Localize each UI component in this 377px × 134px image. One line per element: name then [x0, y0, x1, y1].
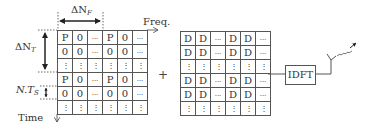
grid-cell: 0: [118, 45, 133, 59]
grid-cell: P: [58, 73, 73, 87]
data-grid-row: ⋮ ⋮ ⋮ ⋮ ⋮ ⋮: [181, 60, 271, 74]
grid-cell: ...: [133, 73, 148, 87]
grid-cell: ⋮: [196, 102, 211, 116]
data-grid-row: D D ... D D ...: [181, 74, 271, 88]
grid-cell: ...: [256, 32, 271, 46]
data-grid-row: D D ... D D ...: [181, 88, 271, 102]
grid-cell: ...: [133, 87, 148, 101]
pilot-grid-row: ⋮ ⋮ ⋮ ⋮ ⋮ ⋮: [58, 101, 148, 115]
grid-cell: ...: [211, 74, 226, 88]
pilot-grid-row: 0 0 ... 0 0 ...: [58, 87, 148, 101]
grid-cell: ...: [133, 45, 148, 59]
delta-nt-label: ΔNT: [15, 41, 36, 54]
grid-cell: ⋮: [226, 102, 241, 116]
grid-cell: ⋮: [58, 101, 73, 115]
pilot-grid-row: P 0 ... P 0 ...: [58, 73, 148, 87]
grid-cell: D: [226, 32, 241, 46]
freq-label: Freq.: [143, 16, 170, 27]
grid-cell: ...: [88, 31, 103, 45]
grid-cell: ⋮: [73, 101, 88, 115]
plus-sign: +: [158, 68, 168, 82]
grid-cell: 0: [118, 31, 133, 45]
pilot-grid-row: 0 0 ... 0 0 ...: [58, 45, 148, 59]
grid-cell: ⋮: [211, 60, 226, 74]
grid-cell: ⋮: [241, 102, 256, 116]
time-label: Time: [18, 112, 43, 123]
grid-cell: D: [181, 46, 196, 60]
grid-cell: ...: [133, 31, 148, 45]
nts-arrow: [40, 86, 57, 99]
grid-cell: D: [196, 46, 211, 60]
grid-cell: ...: [88, 45, 103, 59]
grid-cell: D: [226, 46, 241, 60]
pilot-grid: P 0 ... P 0 ... 0 0 ... 0 0 ... ⋮ ⋮ ⋮ ⋮ …: [57, 30, 148, 115]
grid-cell: 0: [73, 45, 88, 59]
grid-cell: ⋮: [103, 59, 118, 73]
grid-cell: ...: [211, 46, 226, 60]
data-grid-row: D D ... D D ...: [181, 46, 271, 60]
grid-cell: ⋮: [88, 59, 103, 73]
grid-cell: D: [196, 88, 211, 102]
grid-cell: D: [226, 74, 241, 88]
delta-nf-label: ΔNF: [71, 4, 92, 17]
grid-cell: ⋮: [58, 59, 73, 73]
grid-cell: ⋮: [181, 60, 196, 74]
grid-cell: ⋮: [73, 59, 88, 73]
grid-cell: ...: [211, 88, 226, 102]
grid-cell: ⋮: [226, 60, 241, 74]
grid-cell: D: [181, 74, 196, 88]
grid-cell: P: [58, 31, 73, 45]
grid-cell: D: [241, 88, 256, 102]
grid-cell: 0: [118, 87, 133, 101]
grid-cell: ⋮: [133, 59, 148, 73]
grid-cell: D: [196, 74, 211, 88]
grid-cell: D: [196, 32, 211, 46]
grid-cell: 0: [73, 73, 88, 87]
grid-cell: 0: [58, 45, 73, 59]
grid-cell: ...: [88, 73, 103, 87]
data-grid-row: ⋮ ⋮ ⋮ ⋮ ⋮ ⋮: [181, 102, 271, 116]
grid-cell: ...: [88, 87, 103, 101]
delta-nt-arrow: [38, 30, 57, 72]
grid-cell: 0: [103, 45, 118, 59]
antenna-icon: [314, 43, 356, 74]
grid-cell: 0: [73, 31, 88, 45]
grid-cell: D: [181, 88, 196, 102]
grid-cell: ⋮: [256, 102, 271, 116]
grid-cell: 0: [58, 87, 73, 101]
grid-cell: D: [226, 88, 241, 102]
grid-cell: 0: [73, 87, 88, 101]
idft-block: IDFT: [285, 65, 316, 85]
grid-cell: 0: [103, 87, 118, 101]
nts-label: N.TS: [16, 84, 39, 97]
grid-cell: ...: [256, 74, 271, 88]
grid-cell: ⋮: [88, 101, 103, 115]
grid-cell: D: [181, 32, 196, 46]
grid-cell: ⋮: [196, 60, 211, 74]
grid-cell: ...: [256, 88, 271, 102]
grid-cell: ...: [211, 32, 226, 46]
pilot-grid-row: ⋮ ⋮ ⋮ ⋮ ⋮ ⋮: [58, 59, 148, 73]
grid-cell: ⋮: [181, 102, 196, 116]
grid-cell: D: [241, 46, 256, 60]
grid-cell: ...: [256, 46, 271, 60]
pilot-grid-row: P 0 ... P 0 ...: [58, 31, 148, 45]
data-grid: D D ... D D ... D D ... D D ... ⋮ ⋮ ⋮ ⋮ …: [180, 31, 271, 116]
grid-cell: ⋮: [133, 101, 148, 115]
grid-cell: ⋮: [241, 60, 256, 74]
grid-cell: P: [103, 73, 118, 87]
grid-cell: D: [241, 32, 256, 46]
grid-cell: ⋮: [118, 59, 133, 73]
grid-cell: ⋮: [211, 102, 226, 116]
grid-cell: ⋮: [103, 101, 118, 115]
grid-cell: ⋮: [256, 60, 271, 74]
data-grid-row: D D ... D D ...: [181, 32, 271, 46]
grid-cell: ⋮: [118, 101, 133, 115]
grid-cell: 0: [118, 73, 133, 87]
grid-cell: D: [241, 74, 256, 88]
grid-cell: P: [103, 31, 118, 45]
